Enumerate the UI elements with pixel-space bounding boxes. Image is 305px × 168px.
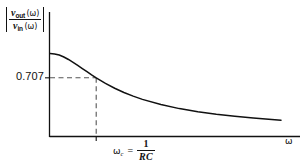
fraction-denominator: vin(ω) [11,20,39,32]
cutoff-subscript: c [121,150,124,157]
abs-bar-left-icon [6,7,7,32]
figure-root: vout(ω) vin(ω) 0.707 ωc = 1 RC ω [0,0,305,168]
cutoff-frequency-label: ωc = 1 RC [113,139,155,162]
response-curve [50,54,281,121]
x-axis-label: ω [285,136,293,146]
rc-fraction: 1 RC [137,139,155,162]
transfer-function-fraction: vout(ω) vin(ω) [9,7,41,32]
rc-denominator: RC [137,151,155,162]
equals-sign: = [127,145,133,156]
fraction-numerator: vout(ω) [9,7,41,19]
cutoff-omega-symbol: ω [113,146,121,156]
denominator-argument: (ω) [24,23,37,31]
numerator-argument: (ω) [26,10,39,18]
numerator-subscript: out [15,13,25,20]
rc-numerator: 1 [140,139,151,150]
y-axis-label: vout(ω) vin(ω) [4,7,46,32]
abs-bar-right-icon [43,7,44,32]
y-tick-label: 0.707 [6,70,44,82]
denominator-subscript: in [18,26,23,33]
